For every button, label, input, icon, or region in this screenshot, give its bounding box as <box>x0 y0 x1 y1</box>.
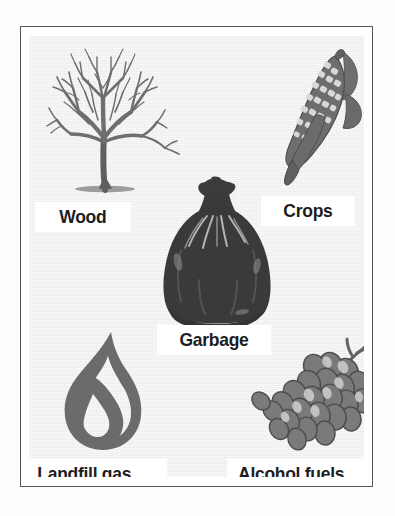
flame-icon <box>51 326 161 471</box>
label-wood: Wood <box>35 202 131 232</box>
figure-scan: Wood Crops Garbage Landfill gas Alcohol … <box>0 0 395 516</box>
label-garbage: Garbage <box>157 325 271 355</box>
figure-panel: Wood Crops Garbage Landfill gas Alcohol … <box>29 36 364 477</box>
label-landfill-gas: Landfill gas <box>29 459 167 477</box>
label-alcohol-fuels: Alcohol fuels <box>227 459 364 477</box>
label-crops: Crops <box>261 196 355 226</box>
figure-frame: Wood Crops Garbage Landfill gas Alcohol … <box>20 26 373 487</box>
